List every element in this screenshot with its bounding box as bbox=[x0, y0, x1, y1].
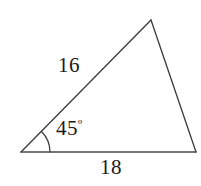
triangle-outline bbox=[21, 20, 196, 152]
triangle-figure: 16 45º 18 bbox=[0, 0, 201, 186]
degree-symbol-icon: º bbox=[78, 116, 83, 131]
angle-measure-label: 45º bbox=[56, 118, 83, 139]
triangle-side-left bbox=[21, 20, 151, 152]
side-length-label-base: 18 bbox=[100, 157, 122, 178]
triangle-side-right bbox=[151, 20, 196, 152]
side-length-label-left: 16 bbox=[58, 55, 80, 76]
angle-arc-icon bbox=[42, 132, 51, 153]
angle-measure-value: 45 bbox=[56, 116, 78, 140]
